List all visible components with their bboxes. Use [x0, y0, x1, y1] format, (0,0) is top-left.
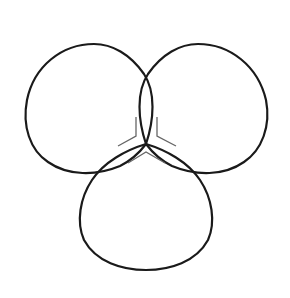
upper-right-bracket-mark [157, 117, 176, 146]
diagram-canvas [0, 0, 290, 298]
right-lobe [140, 44, 268, 173]
left-lobe [26, 44, 153, 173]
bottom-lobe [80, 144, 212, 270]
trefoil-diagram [0, 0, 290, 298]
upper-left-bracket-mark [118, 117, 136, 146]
